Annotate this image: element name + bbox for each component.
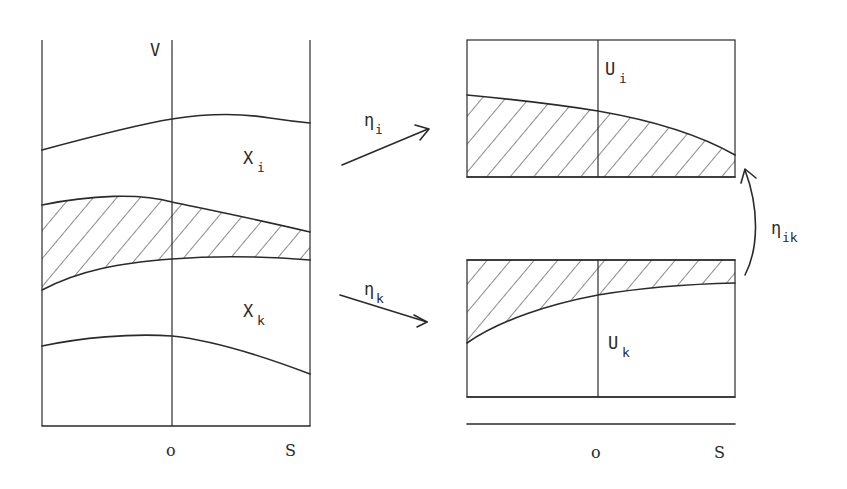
svg-text:U: U xyxy=(605,59,615,79)
svg-text:U: U xyxy=(608,333,618,353)
u-k-hatched-region xyxy=(467,260,735,350)
svg-text:i: i xyxy=(375,122,383,137)
right-top-panel: U i xyxy=(467,40,735,177)
arrow-eta-i: η i xyxy=(342,110,429,165)
svg-text:k: k xyxy=(257,313,265,328)
u-k-label: U k xyxy=(608,333,630,360)
left-tick-s: S xyxy=(285,441,296,460)
svg-text:η: η xyxy=(364,279,374,299)
overlap-hatched-region xyxy=(42,190,310,295)
svg-text:i: i xyxy=(619,71,627,86)
svg-text:k: k xyxy=(376,291,384,306)
arrowhead-icon xyxy=(415,125,429,140)
x-k-label: X k xyxy=(243,301,265,328)
right-bottom-panel: U k o S xyxy=(467,260,735,462)
right-tick-s: S xyxy=(714,443,725,462)
svg-text:X: X xyxy=(243,301,254,321)
svg-text:η: η xyxy=(771,218,781,238)
left-tick-origin: o xyxy=(166,441,176,460)
svg-text:ik: ik xyxy=(782,230,798,245)
diagram-canvas: V X i X k o S η i η k U i xyxy=(0,0,847,489)
arrow-eta-k: η k xyxy=(340,279,427,327)
svg-text:X: X xyxy=(243,148,254,168)
svg-text:k: k xyxy=(622,345,630,360)
svg-text:η: η xyxy=(364,110,374,130)
x-k-lower-curve xyxy=(42,335,310,374)
x-i-label: X i xyxy=(243,148,265,175)
v-axis-label: V xyxy=(150,40,160,60)
svg-text:i: i xyxy=(257,160,265,175)
left-panel: V X i X k o S xyxy=(42,40,310,460)
arrow-eta-ik: η ik xyxy=(741,169,798,275)
arrowhead-icon xyxy=(414,315,427,327)
right-tick-origin: o xyxy=(591,443,601,462)
x-i-upper-curve xyxy=(42,114,310,150)
u-i-label: U i xyxy=(605,59,627,86)
